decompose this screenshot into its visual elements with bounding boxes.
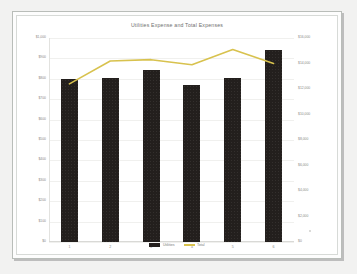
chart-title: Utilities Expense and Total Expenses (17, 22, 337, 28)
chart-frame: Utilities Expense and Total Expenses $1,… (12, 11, 342, 259)
y-tick-label-left: $800 (38, 77, 46, 80)
chart-page: Utilities Expense and Total Expenses $1,… (0, 0, 357, 274)
y-tick-label-right: $2,000 (298, 215, 308, 218)
chart: Utilities Expense and Total Expenses $1,… (17, 16, 337, 254)
legend-item[interactable]: Utilities (149, 243, 174, 247)
y-tick-label-right: $14,000 (298, 62, 310, 65)
y-tick-label-right: $6,000 (298, 164, 308, 167)
legend-bar-swatch-icon (149, 243, 160, 247)
y-tick-label-right: $8,000 (298, 138, 308, 141)
y-tick-label-left: $700 (38, 97, 46, 100)
legend-label: Utilities (163, 243, 175, 247)
y-tick-label-right: $4,000 (298, 189, 308, 192)
y-tick-label-right: $12,000 (298, 87, 310, 90)
legend-item[interactable]: Total (184, 243, 205, 247)
y-tick-label-right: $10,000 (298, 113, 310, 116)
line-series-total (49, 38, 294, 242)
y-tick-label-left: $500 (38, 138, 46, 141)
y-tick-label-left: $600 (38, 118, 46, 121)
chart-legend: UtilitiesTotal (17, 243, 337, 247)
scan-speck (309, 230, 311, 232)
plot-area: $1,000$900$800$700$600$500$400$300$200$1… (49, 38, 294, 242)
y-tick-label-left: $1,000 (36, 36, 46, 39)
legend-line-swatch-icon (184, 244, 195, 246)
y-tick-label-left: $200 (38, 199, 46, 202)
y-tick-label-left: $900 (38, 56, 46, 59)
y-tick-label-right: $16,000 (298, 36, 310, 39)
chart-frame-inner: Utilities Expense and Total Expenses $1,… (16, 15, 338, 255)
y-tick-label-left: $300 (38, 179, 46, 182)
legend-label: Total (197, 243, 205, 247)
y-tick-label-left: $400 (38, 158, 46, 161)
y-tick-label-left: $100 (38, 220, 46, 223)
